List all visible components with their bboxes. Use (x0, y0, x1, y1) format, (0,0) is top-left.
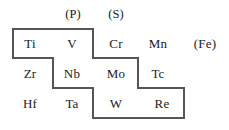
element-cell-fe: (Fe) (194, 36, 216, 52)
element-cell-zr: Zr (24, 66, 37, 82)
element-cell-re: Re (155, 96, 170, 112)
figure-canvas: (P) (S) Ti V Cr Mn (Fe) Zr Nb Mo Tc Hf T… (0, 0, 229, 130)
element-cell-w: W (110, 96, 122, 112)
element-cell-ti: Ti (24, 36, 36, 52)
element-cell-cr: Cr (109, 36, 122, 52)
element-cell-mn: Mn (149, 36, 167, 52)
group-header-p: (P) (65, 7, 80, 22)
element-cell-tc: Tc (151, 66, 164, 82)
element-cell-hf: Hf (23, 96, 37, 112)
element-cell-ta: Ta (65, 96, 78, 112)
element-cell-nb: Nb (64, 66, 80, 82)
group-header-s: (S) (108, 7, 123, 22)
element-cell-mo: Mo (107, 66, 125, 82)
element-cell-v: V (67, 36, 77, 52)
